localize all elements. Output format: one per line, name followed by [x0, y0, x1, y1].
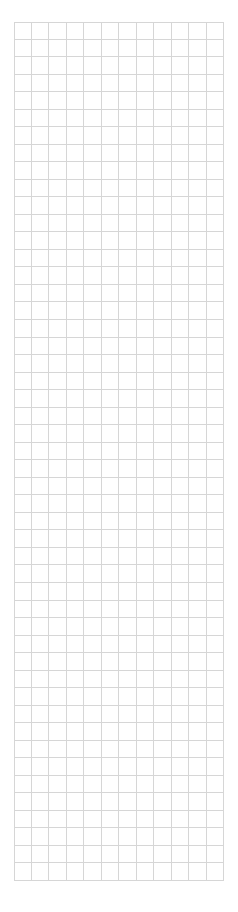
grid-cell[interactable]	[102, 127, 120, 145]
grid-cell[interactable]	[189, 197, 207, 215]
grid-cell[interactable]	[189, 706, 207, 724]
grid-cell[interactable]	[154, 127, 172, 145]
grid-cell[interactable]	[154, 408, 172, 426]
grid-cell[interactable]	[172, 443, 190, 461]
grid-cell[interactable]	[119, 180, 137, 198]
grid-cell[interactable]	[154, 706, 172, 724]
grid-cell[interactable]	[84, 373, 102, 391]
grid-cell[interactable]	[32, 267, 50, 285]
grid-cell[interactable]	[84, 250, 102, 268]
grid-cell[interactable]	[32, 250, 50, 268]
grid-cell[interactable]	[84, 110, 102, 128]
grid-cell[interactable]	[119, 583, 137, 601]
grid-cell[interactable]	[14, 215, 32, 233]
grid-cell[interactable]	[14, 495, 32, 513]
grid-cell[interactable]	[207, 267, 225, 285]
grid-cell[interactable]	[84, 355, 102, 373]
grid-cell[interactable]	[154, 793, 172, 811]
grid-cell[interactable]	[154, 250, 172, 268]
grid-cell[interactable]	[154, 863, 172, 881]
grid-cell[interactable]	[119, 302, 137, 320]
grid-cell[interactable]	[154, 267, 172, 285]
grid-cell[interactable]	[119, 285, 137, 303]
grid-cell[interactable]	[172, 530, 190, 548]
grid-cell[interactable]	[14, 530, 32, 548]
grid-cell[interactable]	[154, 197, 172, 215]
grid-cell[interactable]	[137, 338, 155, 356]
grid-cell[interactable]	[189, 671, 207, 689]
grid-cell[interactable]	[32, 75, 50, 93]
grid-cell[interactable]	[189, 583, 207, 601]
grid-cell[interactable]	[189, 355, 207, 373]
grid-cell[interactable]	[84, 390, 102, 408]
grid-cell[interactable]	[119, 92, 137, 110]
grid-cell[interactable]	[172, 250, 190, 268]
grid-cell[interactable]	[32, 495, 50, 513]
grid-cell[interactable]	[207, 758, 225, 776]
grid-cell[interactable]	[154, 425, 172, 443]
grid-cell[interactable]	[67, 793, 85, 811]
grid-cell[interactable]	[14, 145, 32, 163]
grid-cell[interactable]	[172, 75, 190, 93]
grid-cell[interactable]	[102, 863, 120, 881]
grid-cell[interactable]	[49, 460, 67, 478]
grid-cell[interactable]	[172, 320, 190, 338]
grid-cell[interactable]	[49, 741, 67, 759]
grid-cell[interactable]	[207, 653, 225, 671]
grid-cell[interactable]	[207, 320, 225, 338]
grid-cell[interactable]	[172, 618, 190, 636]
grid-cell[interactable]	[119, 320, 137, 338]
grid-cell[interactable]	[84, 285, 102, 303]
grid-cell[interactable]	[32, 425, 50, 443]
grid-cell[interactable]	[102, 285, 120, 303]
grid-cell[interactable]	[189, 320, 207, 338]
grid-cell[interactable]	[154, 636, 172, 654]
grid-cell[interactable]	[84, 636, 102, 654]
grid-cell[interactable]	[67, 373, 85, 391]
grid-cell[interactable]	[102, 162, 120, 180]
grid-cell[interactable]	[207, 723, 225, 741]
grid-cell[interactable]	[172, 92, 190, 110]
grid-cell[interactable]	[84, 162, 102, 180]
grid-cell[interactable]	[84, 741, 102, 759]
grid-cell[interactable]	[32, 355, 50, 373]
grid-cell[interactable]	[67, 460, 85, 478]
grid-cell[interactable]	[67, 355, 85, 373]
grid-cell[interactable]	[207, 513, 225, 531]
grid-cell[interactable]	[207, 828, 225, 846]
grid-cell[interactable]	[172, 408, 190, 426]
grid-cell[interactable]	[84, 92, 102, 110]
grid-cell[interactable]	[14, 127, 32, 145]
grid-cell[interactable]	[189, 828, 207, 846]
grid-cell[interactable]	[154, 548, 172, 566]
grid-cell[interactable]	[102, 75, 120, 93]
grid-cell[interactable]	[102, 320, 120, 338]
grid-cell[interactable]	[49, 162, 67, 180]
grid-cell[interactable]	[49, 443, 67, 461]
grid-cell[interactable]	[119, 846, 137, 864]
grid-cell[interactable]	[154, 338, 172, 356]
grid-cell[interactable]	[137, 127, 155, 145]
grid-cell[interactable]	[207, 706, 225, 724]
grid-cell[interactable]	[67, 811, 85, 829]
grid-cell[interactable]	[14, 75, 32, 93]
grid-cell[interactable]	[172, 863, 190, 881]
grid-cell[interactable]	[84, 601, 102, 619]
grid-cell[interactable]	[189, 653, 207, 671]
grid-cell[interactable]	[49, 601, 67, 619]
grid-cell[interactable]	[32, 478, 50, 496]
grid-cell[interactable]	[189, 548, 207, 566]
grid-cell[interactable]	[84, 443, 102, 461]
grid-cell[interactable]	[67, 530, 85, 548]
grid-cell[interactable]	[49, 583, 67, 601]
grid-cell[interactable]	[119, 460, 137, 478]
grid-cell[interactable]	[189, 338, 207, 356]
grid-cell[interactable]	[207, 548, 225, 566]
grid-cell[interactable]	[14, 565, 32, 583]
grid-cell[interactable]	[49, 40, 67, 58]
grid-cell[interactable]	[67, 162, 85, 180]
grid-cell[interactable]	[67, 215, 85, 233]
grid-cell[interactable]	[102, 57, 120, 75]
grid-cell[interactable]	[84, 338, 102, 356]
grid-cell[interactable]	[207, 57, 225, 75]
